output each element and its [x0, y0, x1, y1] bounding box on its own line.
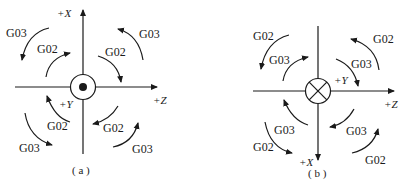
dot-icon — [79, 83, 87, 91]
diagram-canvas: +X +Z +Y G03 G02 G02 G03 G02 G03 G02 G03… — [0, 0, 399, 183]
figure-a: +X +Z +Y G03 G02 G02 G03 G02 G03 G02 G03… — [6, 7, 167, 177]
label-bottom-right-outer: G02 — [365, 153, 386, 167]
axis-label-z: +Z — [384, 98, 398, 110]
caption-b: ( b ) — [308, 167, 327, 180]
label-top-right-outer: G02 — [373, 32, 394, 46]
label-bottom-left-inner: G03 — [274, 123, 295, 137]
label-bottom-right-inner: G02 — [103, 121, 124, 135]
label-top-left-inner: G03 — [269, 53, 290, 67]
arc-arrow-top-right-inner — [98, 56, 121, 82]
label-bottom-left-outer: G03 — [19, 141, 40, 155]
label-top-right-inner: G03 — [351, 57, 372, 71]
caption-a: ( a ) — [72, 164, 90, 177]
axis-label-y: +Y — [59, 98, 74, 110]
label-bottom-right-outer: G03 — [132, 142, 153, 156]
label-bottom-left-inner: G02 — [47, 119, 68, 133]
figure-b: +Y +Z +X G02 G03 G03 G02 G03 G02 G03 G02… — [253, 26, 398, 180]
axis-label-z: +Z — [153, 94, 167, 106]
axis-label-y: +Y — [334, 74, 349, 86]
label-bottom-right-inner: G03 — [346, 124, 367, 138]
axis-label-x: +X — [57, 7, 72, 19]
arc-arrow-top-left-inner — [46, 53, 70, 77]
label-bottom-left-outer: G02 — [253, 140, 274, 154]
label-top-right-inner: G02 — [105, 45, 126, 59]
arc-arrow-bottom-left-inner — [284, 100, 308, 125]
label-top-left-inner: G02 — [37, 42, 58, 56]
label-top-right-outer: G03 — [139, 27, 160, 41]
label-top-left-outer: G03 — [6, 26, 27, 40]
label-top-left-outer: G02 — [253, 29, 274, 43]
